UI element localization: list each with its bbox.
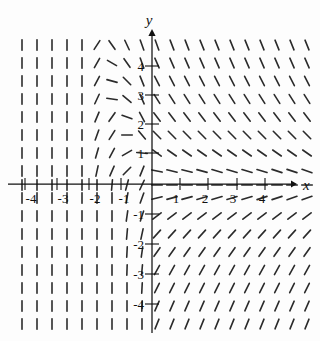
slope-dash bbox=[169, 95, 175, 104]
slope-field-plot: -4-3-2-112344321-1-2-3-4 x y bbox=[0, 0, 320, 341]
slope-dash bbox=[170, 283, 175, 292]
slope-dash bbox=[230, 58, 234, 68]
slope-dash bbox=[95, 76, 100, 85]
slope-dash bbox=[154, 113, 160, 121]
slope-dash bbox=[228, 213, 236, 219]
slope-dash bbox=[228, 230, 235, 238]
slope-dash bbox=[259, 113, 265, 121]
slope-dash bbox=[245, 58, 249, 68]
slope-dash bbox=[122, 115, 132, 119]
slope-dash bbox=[303, 150, 312, 156]
slope-dash bbox=[230, 40, 234, 50]
slope-dash bbox=[142, 283, 143, 293]
slope-dash bbox=[302, 169, 312, 172]
slope-dash bbox=[199, 265, 204, 274]
slope-dash bbox=[229, 113, 235, 121]
slope-dash bbox=[245, 283, 250, 292]
slope-dash bbox=[96, 148, 99, 158]
slope-dash bbox=[200, 301, 204, 311]
slope-dash bbox=[289, 95, 295, 104]
slope-dash bbox=[182, 170, 192, 173]
slope-dash bbox=[228, 131, 235, 138]
slope-dash bbox=[215, 58, 219, 68]
slope-dash bbox=[243, 230, 250, 238]
slope-dash bbox=[288, 230, 295, 238]
slope-dash bbox=[243, 150, 252, 156]
x-tick-label: -1 bbox=[119, 191, 130, 206]
x-tick-label: 1 bbox=[173, 191, 180, 206]
slope-dash bbox=[213, 150, 222, 156]
slope-dash bbox=[304, 95, 310, 104]
slope-dash bbox=[123, 96, 131, 103]
slope-dash bbox=[109, 131, 115, 140]
slope-dash bbox=[243, 131, 250, 138]
x-tick-label: -3 bbox=[58, 191, 69, 206]
slope-dash bbox=[123, 167, 130, 174]
slope-dash bbox=[139, 131, 146, 139]
slope-dash bbox=[94, 58, 99, 67]
y-tick-label: 3 bbox=[138, 88, 145, 103]
slope-dash bbox=[140, 166, 144, 176]
slope-dash bbox=[243, 213, 251, 219]
slope-dash bbox=[170, 76, 175, 85]
slope-dash bbox=[230, 76, 235, 85]
slope-dash bbox=[275, 76, 280, 85]
slope-dash bbox=[200, 40, 204, 50]
slope-dash bbox=[199, 248, 205, 257]
slope-dash bbox=[290, 40, 294, 50]
slope-dash bbox=[95, 94, 99, 104]
slope-dash bbox=[290, 301, 294, 311]
slope-dash bbox=[107, 60, 116, 65]
slope-dash bbox=[273, 213, 281, 219]
slope-dash bbox=[168, 230, 175, 238]
slope-dash bbox=[290, 319, 294, 329]
slope-dash bbox=[274, 113, 280, 121]
slope-dash bbox=[125, 40, 129, 50]
slope-dash bbox=[304, 265, 309, 274]
slope-dash bbox=[258, 230, 265, 238]
slope-dash bbox=[126, 180, 129, 190]
slope-dash bbox=[274, 95, 280, 104]
x-axis-label: x bbox=[302, 177, 310, 193]
slope-dash bbox=[290, 58, 294, 68]
slope-dash bbox=[127, 247, 128, 257]
slope-dash bbox=[107, 98, 117, 99]
slope-dash bbox=[214, 248, 220, 257]
slope-dash bbox=[154, 248, 160, 257]
slope-dash bbox=[305, 40, 309, 50]
y-tick-label: -2 bbox=[133, 237, 144, 252]
slope-dash bbox=[259, 248, 265, 257]
slope-dash bbox=[126, 211, 127, 221]
slope-dash bbox=[154, 95, 160, 104]
slope-dash bbox=[110, 166, 114, 176]
x-tick-label: -2 bbox=[90, 191, 101, 206]
slope-dash bbox=[214, 113, 220, 121]
slope-dash bbox=[200, 283, 205, 292]
slope-dash bbox=[244, 113, 250, 121]
slope-dash bbox=[302, 196, 312, 200]
slope-dash bbox=[198, 131, 205, 138]
slope-dash bbox=[185, 283, 190, 292]
slope-dash bbox=[168, 213, 176, 219]
slope-dash bbox=[170, 319, 174, 329]
slope-dash bbox=[273, 230, 280, 238]
slope-dash bbox=[185, 301, 189, 311]
slope-dash bbox=[185, 40, 189, 50]
slope-dash bbox=[167, 170, 177, 172]
slope-dash bbox=[200, 58, 204, 68]
slope-dash bbox=[168, 131, 175, 138]
slope-dash bbox=[242, 196, 252, 199]
y-tick-label: 1 bbox=[138, 146, 145, 161]
slope-dash bbox=[229, 248, 235, 257]
slope-dash bbox=[303, 131, 310, 138]
x-tick-label: 2 bbox=[202, 191, 209, 206]
slope-dash bbox=[260, 58, 264, 68]
slope-dash bbox=[290, 76, 295, 85]
slope-dash bbox=[122, 150, 131, 155]
slope-dash bbox=[170, 58, 174, 68]
slope-dash bbox=[153, 131, 160, 138]
slope-dash bbox=[198, 213, 206, 219]
y-tick-label: 4 bbox=[138, 59, 145, 74]
slope-dash bbox=[154, 265, 159, 274]
slope-dash bbox=[200, 76, 205, 85]
